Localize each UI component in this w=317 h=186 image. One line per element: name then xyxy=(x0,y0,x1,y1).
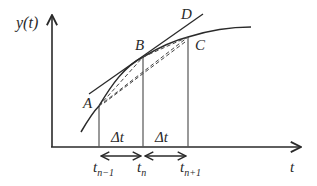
tick-label-t-n: tn xyxy=(137,159,146,178)
delta-t-label-1: Δt xyxy=(110,129,125,145)
point-label-b: B xyxy=(135,37,144,53)
secant-ab xyxy=(99,57,143,106)
y-axis-label: y(t) xyxy=(14,14,38,32)
x-axis-label: t xyxy=(290,159,295,175)
point-label-a: A xyxy=(82,95,93,111)
function-curve xyxy=(81,27,251,132)
point-label-d: D xyxy=(180,6,192,22)
secant-ac-parallel xyxy=(104,42,185,103)
delta-t-label-2: Δt xyxy=(154,129,169,145)
tangent-line-bd xyxy=(89,14,203,94)
point-label-c: C xyxy=(195,37,206,53)
diagram-canvas: y(t) t A B C D Δt Δt tn−1 tn tn+1 xyxy=(0,0,317,186)
tick-label-t-n-minus-1: tn−1 xyxy=(93,159,114,178)
tick-label-t-n-plus-1: tn+1 xyxy=(180,159,201,178)
